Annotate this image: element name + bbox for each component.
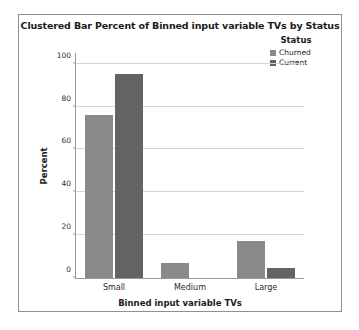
- bars: [152, 53, 228, 278]
- bars: [76, 53, 152, 278]
- y-axis-tick-label: 100: [57, 50, 71, 59]
- bar-medium-churned[interactable]: [161, 263, 189, 278]
- y-axis-tick-label: 0: [66, 265, 71, 274]
- y-axis-title: Percent: [37, 53, 51, 278]
- y-axis-title-label: Percent: [39, 147, 49, 184]
- y-axis-tick-label: 60: [61, 136, 71, 145]
- x-axis-tick-label: Large: [228, 283, 304, 292]
- chart-frame: Clustered Bar Percent of Binned input va…: [18, 14, 342, 312]
- bar-large-churned[interactable]: [237, 241, 265, 278]
- bar-group: Small: [76, 53, 152, 278]
- y-axis-tick-label: 40: [61, 179, 71, 188]
- legend-title: Status: [262, 35, 336, 45]
- plot-area: 020406080100 SmallMediumLarge: [75, 53, 304, 279]
- x-axis-tick-label: Small: [76, 283, 152, 292]
- bar-large-current[interactable]: [267, 268, 295, 278]
- bar-small-churned[interactable]: [85, 115, 113, 278]
- bar-group: Medium: [152, 53, 228, 278]
- x-axis-tick-label: Medium: [152, 283, 228, 292]
- bars: [228, 53, 304, 278]
- chart-title: Clustered Bar Percent of Binned input va…: [19, 20, 341, 31]
- y-axis-tick-label: 80: [61, 93, 71, 102]
- bar-small-current[interactable]: [115, 74, 143, 278]
- x-axis-title: Binned input variable TVs: [19, 298, 341, 308]
- bar-group: Large: [228, 53, 304, 278]
- y-axis-tick-label: 20: [61, 222, 71, 231]
